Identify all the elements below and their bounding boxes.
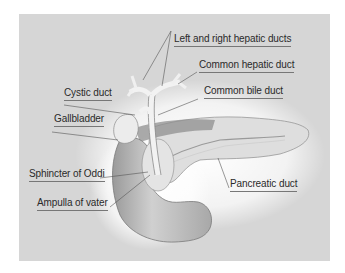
label-cystic-duct: Cystic duct: [64, 87, 112, 101]
gallbladder-shape: [114, 114, 139, 143]
label-common-bile-duct: Common bile duct: [204, 85, 283, 99]
label-gallbladder: Gallbladder: [54, 113, 104, 127]
label-ampulla-of-vater: Ampulla of vater: [37, 197, 108, 211]
label-left-right-hepatic-ducts: Left and right hepatic ducts: [174, 33, 291, 47]
label-pancreatic-duct: Pancreatic duct: [230, 178, 297, 192]
label-sphincter-of-oddi: Sphincter of Oddi: [29, 168, 105, 182]
biliary-anatomy-illustration: [0, 0, 345, 273]
label-common-hepatic-duct: Common hepatic duct: [199, 59, 294, 73]
